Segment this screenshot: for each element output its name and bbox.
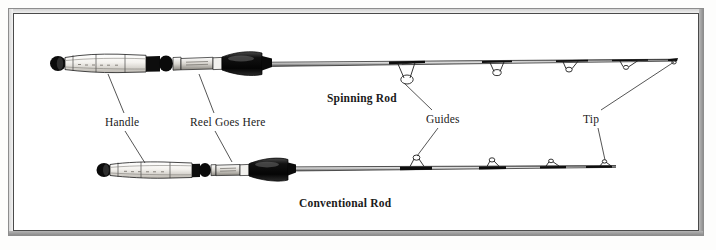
conventional-rod-illustration <box>97 155 617 181</box>
spinning-rod-reel-seat <box>146 56 222 72</box>
leader-guides-to-spinning <box>404 83 432 110</box>
label-reel-goes-here: Reel Goes Here <box>190 117 266 129</box>
conventional-rod-reel-seat <box>192 163 249 177</box>
guide <box>490 62 504 76</box>
guide <box>410 155 424 167</box>
label-guides: Guides <box>426 114 460 126</box>
guide <box>398 63 415 84</box>
leader-reel-to-spinning <box>199 74 214 113</box>
guide <box>487 158 499 167</box>
conventional-rod-foregrip <box>249 158 296 181</box>
leader-reel-to-conventional <box>215 131 232 162</box>
spinning-rod-butt-cap <box>50 56 66 71</box>
caption-conventional-rod: Conventional Rod <box>299 198 391 210</box>
leader-tip-to-conventional <box>598 128 605 160</box>
spinning-rod-blank <box>258 58 678 67</box>
conventional-rod-handle <box>110 162 192 178</box>
spinning-rod-illustration <box>50 52 678 84</box>
leader-handle-to-conventional <box>125 131 145 163</box>
guide <box>546 159 559 166</box>
label-tip: Tip <box>583 114 599 126</box>
fishing-rod-diagram: Handle Reel Goes Here Guides Tip Spinnin… <box>0 0 716 250</box>
label-handle: Handle <box>105 117 139 129</box>
leader-guides-to-conventional <box>417 128 438 156</box>
tip-top-guide <box>600 160 611 166</box>
conventional-rod-blank <box>283 166 616 172</box>
conventional-rod-butt-cap <box>97 163 112 177</box>
spinning-rod-foregrip <box>222 52 272 76</box>
leader-handle-to-spinning <box>108 74 124 113</box>
caption-spinning-rod: Spinning Rod <box>327 93 397 105</box>
leader-tip-to-spinning <box>601 62 674 110</box>
spinning-rod-handle <box>65 54 146 73</box>
conventional-rod-guides <box>410 155 611 167</box>
